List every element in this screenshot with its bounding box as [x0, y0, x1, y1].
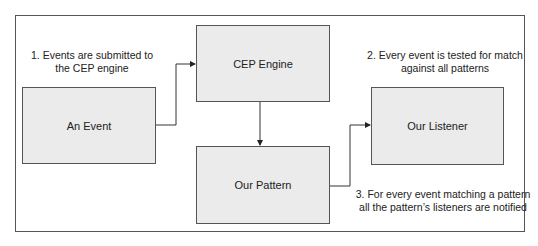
edge-event-to-engine — [156, 64, 195, 125]
connector-layer — [0, 0, 538, 246]
edge-pattern-to-listener — [330, 125, 370, 186]
